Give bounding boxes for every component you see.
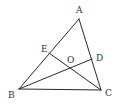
segments [19,19,101,90]
segment-ab [19,19,79,89]
label-point-b: B [8,90,15,100]
label-point-c: C [105,88,112,98]
point-labels: ABCDEO [8,5,112,100]
segment-bc [19,89,101,90]
label-point-a: A [75,5,83,15]
label-point-d: D [96,53,103,63]
label-point-e: E [41,44,48,54]
triangle-diagram: ABCDEO [0,0,119,106]
segment-bd [19,59,92,89]
label-point-o: O [67,55,74,65]
segment-ce [49,53,101,90]
